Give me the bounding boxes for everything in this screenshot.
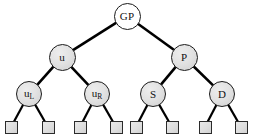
tree-leaf-node	[130, 121, 143, 134]
tree-leaf-node	[5, 121, 18, 134]
tree-edge-GP-P	[137, 23, 174, 49]
tree-edge-D-leaf7	[208, 105, 217, 122]
tree-edge-P-D	[193, 66, 213, 86]
tree-edge-u-uL	[37, 66, 54, 85]
tree-node-label-u: u	[59, 52, 65, 63]
tree-node-label-ur: uR	[92, 88, 103, 100]
tree-leaf-node	[199, 121, 212, 134]
tree-leaf-node	[110, 121, 123, 134]
tree-edge-P-S	[161, 67, 176, 85]
tree-leaf-node	[74, 121, 87, 134]
tree-leaf-node	[235, 121, 248, 134]
tree-node-ur: uR	[84, 81, 110, 107]
tree-node-label-gp: GP	[120, 11, 134, 22]
tree-node-subscript-ur: R	[97, 92, 102, 101]
tree-node-label-ul: uL	[24, 88, 34, 100]
tree-leaf-node	[166, 121, 179, 134]
tree-node-p: P	[171, 44, 198, 71]
tree-node-d: D	[209, 81, 235, 107]
binary-tree-diagram: GPuPuLuRSD	[0, 0, 255, 136]
tree-node-label-d: D	[218, 89, 226, 100]
tree-node-label-p: P	[181, 52, 187, 63]
tree-node-subscript-ul: L	[30, 92, 35, 101]
tree-node-u: u	[49, 44, 76, 71]
tree-node-gp: GP	[114, 3, 141, 30]
tree-edge-S-leaf5	[139, 105, 148, 122]
tree-node-ul: uL	[16, 81, 42, 107]
tree-node-label-s: S	[150, 89, 156, 100]
tree-edge-uR-leaf3	[83, 105, 92, 122]
tree-edge-u-uR	[71, 66, 89, 85]
tree-leaf-node	[42, 121, 55, 134]
tree-node-s: S	[140, 81, 166, 107]
tree-edge-GP-u	[73, 23, 117, 51]
